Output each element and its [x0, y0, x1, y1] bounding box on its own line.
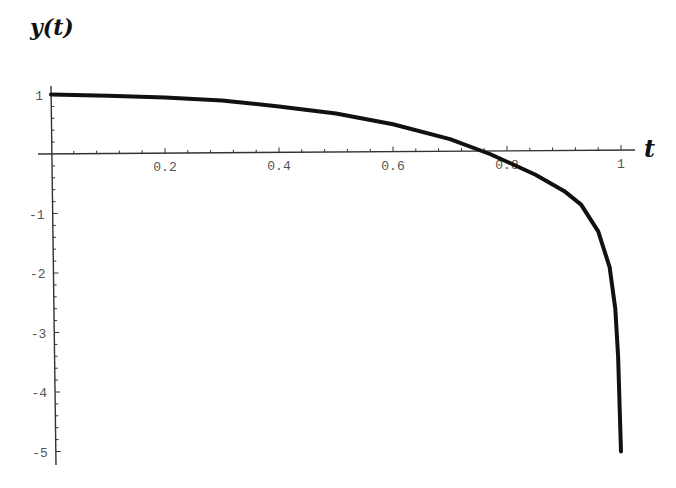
- y-tick-label: -2: [30, 267, 46, 282]
- x-tick-label: 1: [617, 157, 625, 172]
- x-axis-line: [38, 150, 635, 154]
- y-tick-label: -4: [31, 386, 47, 401]
- x-tick-label: 0.6: [381, 159, 404, 174]
- data-curve: [51, 95, 621, 452]
- y-tick-label: -1: [29, 208, 45, 223]
- tick-labels: 0.20.40.60.811-1-2-3-4-5: [29, 89, 625, 461]
- x-tick-label: 0.4: [267, 159, 291, 174]
- plot-area: 0.20.40.60.811-1-2-3-4-5: [0, 0, 676, 488]
- x-tick-label: 0.2: [153, 160, 176, 175]
- y-tick-label: 1: [35, 89, 43, 104]
- tick-marks: [51, 95, 621, 452]
- axes: [38, 86, 635, 465]
- y-axis-line: [51, 86, 56, 465]
- y-tick-label: -5: [32, 446, 48, 461]
- y-tick-label: -3: [31, 327, 47, 342]
